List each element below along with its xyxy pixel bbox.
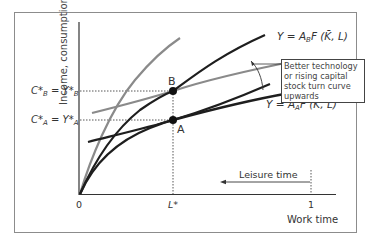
x-axis-label: Work time — [287, 215, 338, 225]
point-a — [169, 116, 177, 124]
point-b-label: B — [168, 76, 176, 87]
curve-label-ab: Y = ABF (K̄, L) — [277, 31, 348, 44]
point-b — [169, 87, 177, 95]
level-label-b: C*B = Y*B — [31, 86, 78, 98]
annotation-box: Better technology or rising capital stoc… — [281, 59, 365, 103]
leisure-arrow-head — [220, 180, 226, 184]
level-label-a: C*A = Y*A — [31, 115, 78, 127]
point-a-label: A — [177, 124, 185, 135]
curve-production-ab — [80, 35, 265, 194]
y-axis-label: Income, consumption — [52, 16, 74, 86]
curve-grey-steep — [80, 38, 180, 194]
x-tick-lstar: L* — [168, 200, 178, 210]
origin-label: 0 — [76, 200, 82, 210]
x-tick-one: 1 — [308, 200, 314, 210]
leisure-time-label: Leisure time — [239, 170, 298, 180]
